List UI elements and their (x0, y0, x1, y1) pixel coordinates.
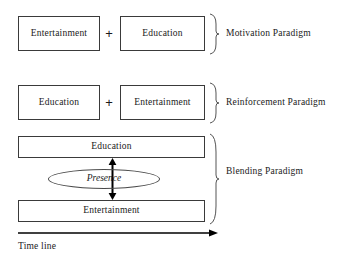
box-label: Entertainment (31, 29, 87, 39)
presence-ellipse: Presence (48, 169, 160, 189)
box-label: Education (142, 29, 182, 39)
blending-box-entertainment: Entertainment (18, 200, 205, 222)
motivation-plus-operator: + (102, 27, 116, 40)
reinforcement-paradigm-label: Reinforcement Paradigm (226, 98, 326, 108)
paradigm-diagram: Entertainment + Education Motivation Par… (0, 0, 347, 260)
box-label: Education (39, 98, 79, 108)
reinforcement-box-education: Education (18, 85, 100, 120)
blending-brace-icon (208, 132, 220, 226)
box-label: Entertainment (83, 206, 139, 216)
motivation-brace-icon (208, 12, 220, 56)
motivation-box-entertainment: Entertainment (18, 16, 100, 51)
timeline-label: Time line (18, 242, 56, 252)
motivation-box-education: Education (120, 16, 205, 51)
reinforcement-box-entertainment: Entertainment (120, 85, 205, 120)
presence-label: Presence (87, 174, 121, 184)
motivation-paradigm-label: Motivation Paradigm (226, 29, 311, 39)
box-label: Education (91, 142, 131, 152)
blending-paradigm-label: Blending Paradigm (226, 167, 303, 177)
blending-box-education: Education (18, 136, 205, 158)
reinforcement-plus-operator: + (102, 96, 116, 109)
box-label: Entertainment (134, 98, 190, 108)
timeline-arrow-right-icon (18, 228, 218, 238)
reinforcement-brace-icon (208, 81, 220, 125)
